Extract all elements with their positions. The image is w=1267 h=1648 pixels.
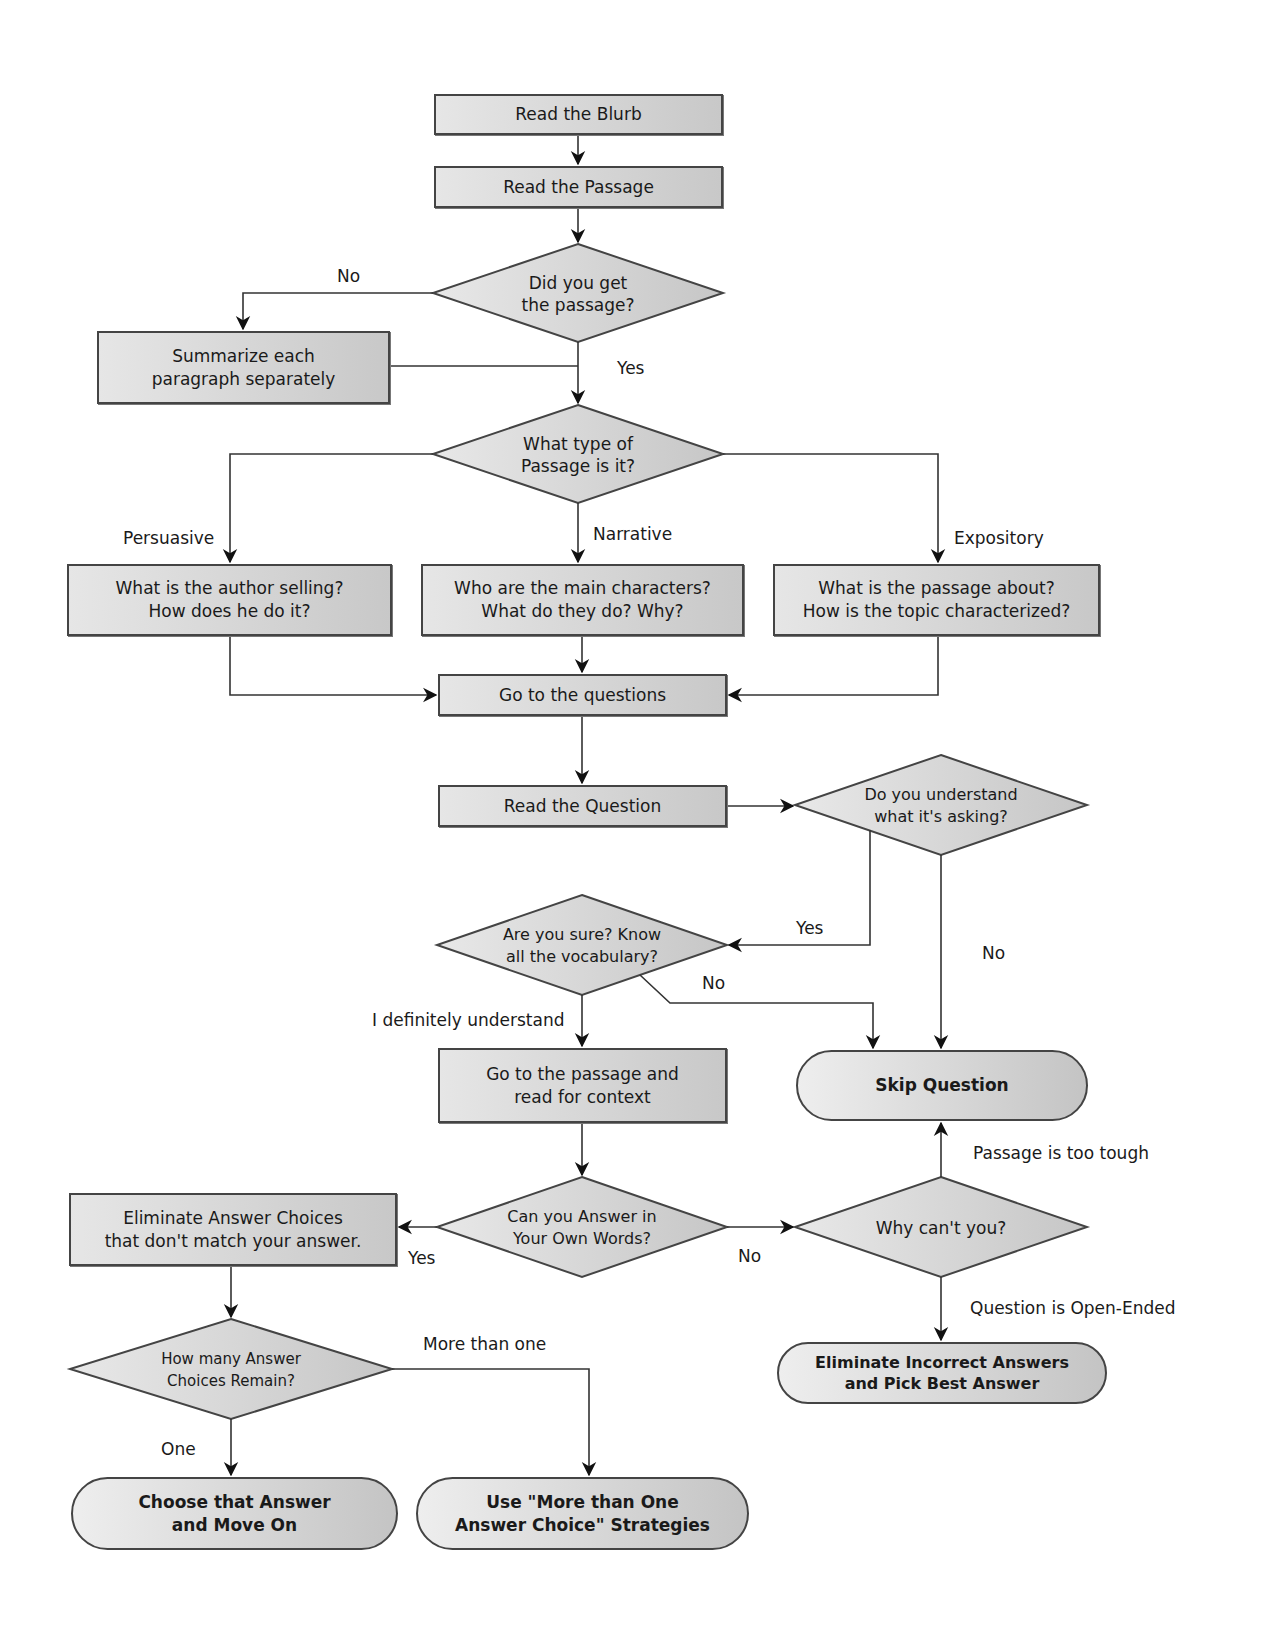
edge-label-expository: Expository [954, 528, 1044, 548]
edge-label-no-understand: No [982, 943, 1005, 963]
step-narrative-label: Who are the main characters? What do the… [454, 577, 711, 623]
terminal-skip-question: Skip Question [796, 1050, 1088, 1121]
decision-do-you-understand-label: Do you understand what it's asking? [831, 783, 1051, 829]
step-read-question: Read the Question [438, 785, 727, 827]
edge-label-narrative: Narrative [593, 524, 672, 544]
step-eliminate-choices: Eliminate Answer Choices that don't matc… [69, 1193, 397, 1266]
step-summarize: Summarize each paragraph separately [97, 331, 390, 404]
edge-label-no-vocabulary: No [702, 973, 725, 993]
decision-can-you-answer-label: Can you Answer in Your Own Words? [482, 1205, 682, 1251]
edge-label-yes: Yes [617, 358, 644, 378]
terminal-skip-question-label: Skip Question [875, 1074, 1008, 1097]
step-read-passage-label: Read the Passage [503, 176, 654, 199]
step-read-blurb-label: Read the Blurb [515, 103, 641, 126]
terminal-use-strategies-label: Use "More than One Answer Choice" Strate… [455, 1491, 710, 1537]
edge-label-open-ended: Question is Open-Ended [970, 1298, 1176, 1318]
step-expository: What is the passage about? How is the to… [773, 564, 1100, 636]
step-read-blurb: Read the Blurb [434, 94, 723, 135]
edge-label-more-than-one: More than one [423, 1334, 546, 1354]
step-persuasive: What is the author selling? How does he … [67, 564, 392, 636]
step-read-passage: Read the Passage [434, 166, 723, 208]
edge-label-yes-answer: Yes [408, 1248, 435, 1268]
terminal-use-strategies: Use "More than One Answer Choice" Strate… [416, 1477, 749, 1550]
decision-are-you-sure-label: Are you sure? Know all the vocabulary? [472, 923, 692, 969]
decision-what-type-label: What type of Passage is it? [478, 431, 678, 479]
terminal-choose-answer: Choose that Answer and Move On [71, 1477, 398, 1550]
step-go-to-passage-label: Go to the passage and read for context [486, 1063, 679, 1109]
decision-did-you-get-label: Did you get the passage? [478, 270, 678, 318]
decision-why-cant-label: Why can't you? [841, 1215, 1041, 1241]
edge-label-yes-understand: Yes [796, 918, 823, 938]
step-read-question-label: Read the Question [504, 795, 661, 818]
edge-label-no-answer: No [738, 1246, 761, 1266]
terminal-choose-answer-label: Choose that Answer and Move On [138, 1491, 330, 1537]
edge-label-one: One [161, 1439, 196, 1459]
step-go-to-questions-label: Go to the questions [499, 684, 666, 707]
step-persuasive-label: What is the author selling? How does he … [116, 577, 344, 623]
terminal-eliminate-incorrect-label: Eliminate Incorrect Answers and Pick Bes… [815, 1352, 1069, 1394]
step-narrative: Who are the main characters? What do the… [421, 564, 744, 636]
step-expository-label: What is the passage about? How is the to… [803, 577, 1070, 623]
terminal-eliminate-incorrect: Eliminate Incorrect Answers and Pick Bes… [777, 1342, 1107, 1404]
decision-how-many-label: How many Answer Choices Remain? [136, 1347, 326, 1393]
edge-label-definitely-understand: I definitely understand [372, 1010, 564, 1030]
edge-label-persuasive: Persuasive [123, 528, 214, 548]
edge-label-passage-tough: Passage is too tough [973, 1143, 1149, 1163]
step-go-to-questions: Go to the questions [438, 674, 727, 716]
step-go-to-passage: Go to the passage and read for context [438, 1048, 727, 1123]
step-summarize-label: Summarize each paragraph separately [152, 345, 336, 391]
edge-label-no: No [337, 266, 360, 286]
step-eliminate-choices-label: Eliminate Answer Choices that don't matc… [105, 1207, 362, 1253]
